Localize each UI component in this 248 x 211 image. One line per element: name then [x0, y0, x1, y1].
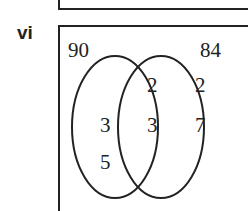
- set-a-circle: [72, 56, 158, 198]
- set-b-circle: [118, 56, 204, 198]
- only-a-value-1: 3: [100, 115, 111, 136]
- venn-circles: [0, 0, 248, 211]
- only-a-value-2: 5: [100, 152, 111, 173]
- intersection-value-2: 3: [147, 115, 158, 136]
- only-b-value-2: 7: [195, 115, 206, 136]
- only-b-value-1: 2: [195, 75, 206, 96]
- set-b-total: 84: [200, 40, 221, 61]
- intersection-value-1: 2: [147, 75, 158, 96]
- set-a-total: 90: [68, 40, 89, 61]
